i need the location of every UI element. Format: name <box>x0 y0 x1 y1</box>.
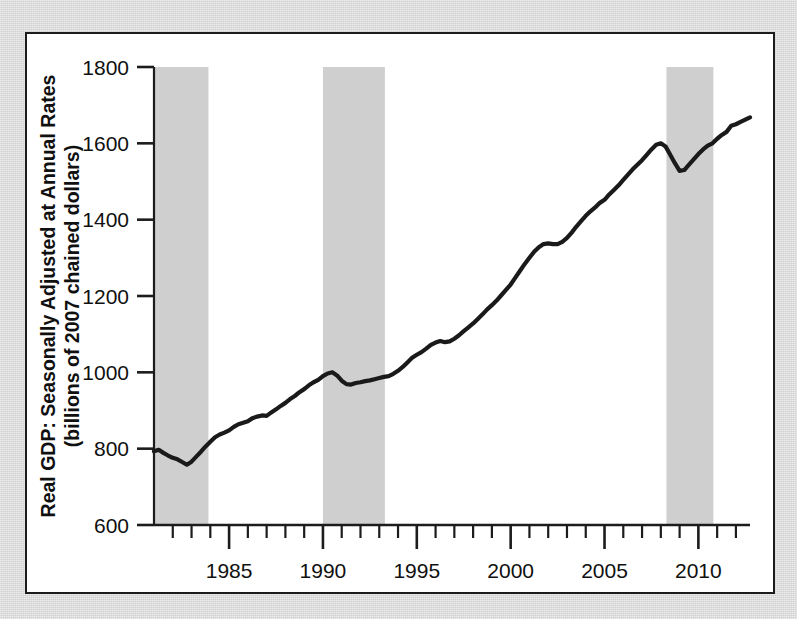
recession-band <box>323 67 385 525</box>
x-axis-tick-label-group: 198519901995200020052010 <box>206 559 722 582</box>
x-axis-tick-label: 1995 <box>393 559 440 582</box>
y-axis-tick-label: 1800 <box>82 56 129 79</box>
y-axis-tick-label-group: 60080010001200140016001800 <box>82 56 129 537</box>
y-axis-tick-label: 600 <box>94 514 129 537</box>
x-axis-tick-group <box>173 525 736 549</box>
plot-axes-group <box>154 67 750 525</box>
recession-band <box>154 67 208 525</box>
x-axis-tick-label: 2010 <box>675 559 722 582</box>
figure-frame: 60080010001200140016001800 1985199019952… <box>25 32 775 594</box>
recession-band <box>666 67 713 525</box>
y-axis-tick-label: 1200 <box>82 285 129 308</box>
x-axis-tick-label: 1985 <box>206 559 253 582</box>
gdp-line-chart: 60080010001200140016001800 1985199019952… <box>27 34 773 592</box>
y-axis-tick-label: 1600 <box>82 132 129 155</box>
y-axis-tick-label: 800 <box>94 437 129 460</box>
y-axis-title-line1: Real GDP: Seasonally Adjusted at Annual … <box>37 74 59 517</box>
y-axis-tick-label: 1000 <box>82 361 129 384</box>
y-axis-title-group: Real GDP: Seasonally Adjusted at Annual … <box>37 74 83 517</box>
y-axis-title-line2: (billions of 2007 chained dollars) <box>61 145 83 447</box>
recession-band-group <box>154 67 713 525</box>
x-axis-tick-label: 2000 <box>487 559 534 582</box>
gdp-series-line <box>154 117 750 464</box>
x-axis-tick-label: 1990 <box>300 559 347 582</box>
y-axis-tick-group <box>137 67 154 525</box>
gdp-series-group <box>154 117 750 464</box>
x-axis-tick-label: 2005 <box>581 559 628 582</box>
y-axis-tick-label: 1400 <box>82 208 129 231</box>
